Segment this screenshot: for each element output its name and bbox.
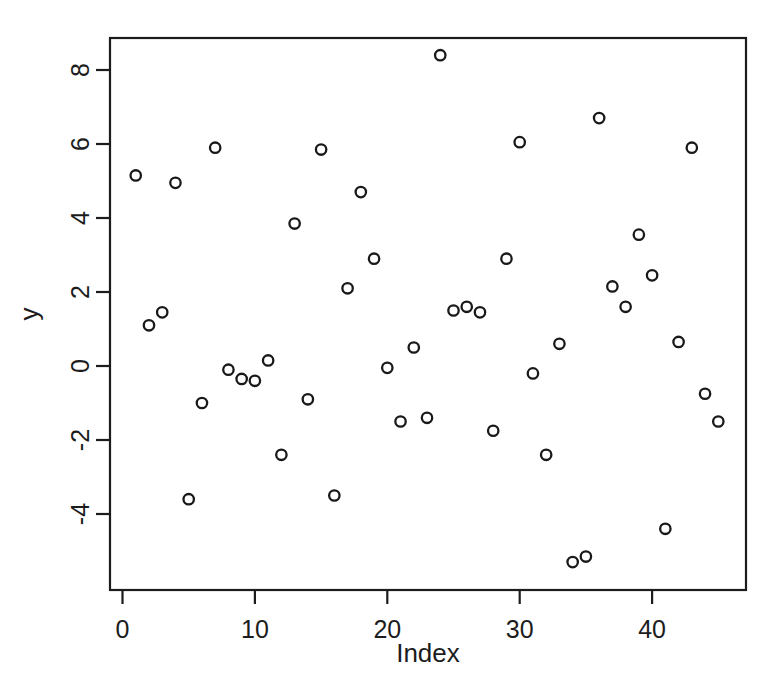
plot-panel <box>110 38 746 590</box>
y-tick-label-8: 8 <box>66 63 94 77</box>
x-axis-ticks <box>123 590 653 604</box>
x-tick-label-30: 30 <box>506 615 534 643</box>
data-point <box>422 413 432 423</box>
y-tick-label--2: -2 <box>66 429 94 451</box>
plot-canvas: 010203040 86420-2-4 Index y <box>0 0 780 686</box>
data-point <box>395 416 405 426</box>
x-axis-title: Index <box>396 638 460 668</box>
data-point <box>673 337 683 347</box>
data-point <box>647 270 657 280</box>
data-point <box>607 281 617 291</box>
data-point <box>448 305 458 315</box>
data-point <box>342 283 352 293</box>
data-point <box>700 389 710 399</box>
y-tick-label-0: 0 <box>66 359 94 373</box>
data-point <box>250 376 260 386</box>
data-point <box>501 254 511 264</box>
data-points-layer <box>131 50 724 567</box>
data-point <box>634 229 644 239</box>
y-tick-label-2: 2 <box>66 285 94 299</box>
data-point <box>515 137 525 147</box>
y-axis-title: y <box>14 308 44 321</box>
data-point <box>435 50 445 60</box>
data-point <box>581 551 591 561</box>
data-point <box>713 416 723 426</box>
data-point <box>369 254 379 264</box>
data-point <box>316 144 326 154</box>
data-point <box>594 113 604 123</box>
data-point <box>289 218 299 228</box>
x-tick-label-10: 10 <box>241 615 269 643</box>
data-point <box>382 363 392 373</box>
data-point <box>567 557 577 567</box>
scatter-plot-figure: 010203040 86420-2-4 Index y <box>0 0 780 686</box>
data-point <box>184 494 194 504</box>
x-axis-tick-labels: 010203040 <box>116 615 666 643</box>
x-tick-label-0: 0 <box>116 615 130 643</box>
y-axis-ticks <box>96 70 110 514</box>
y-tick-label-6: 6 <box>66 137 94 151</box>
data-point <box>660 524 670 534</box>
data-point <box>409 342 419 352</box>
data-point <box>329 490 339 500</box>
data-point <box>131 170 141 180</box>
data-point <box>210 143 220 153</box>
data-point <box>197 398 207 408</box>
data-point <box>554 339 564 349</box>
data-point <box>620 302 630 312</box>
panel-border <box>110 38 746 590</box>
y-tick-label--4: -4 <box>66 503 94 525</box>
data-point <box>223 365 233 375</box>
data-point <box>475 307 485 317</box>
data-point <box>303 394 313 404</box>
data-point <box>263 355 273 365</box>
data-point <box>144 320 154 330</box>
x-tick-label-40: 40 <box>638 615 666 643</box>
data-point <box>528 368 538 378</box>
y-tick-label-4: 4 <box>66 211 94 225</box>
data-point <box>236 374 246 384</box>
data-point <box>541 450 551 460</box>
y-axis-tick-labels: 86420-2-4 <box>66 63 94 525</box>
data-point <box>687 143 697 153</box>
data-point <box>276 450 286 460</box>
data-point <box>462 302 472 312</box>
data-point <box>356 187 366 197</box>
data-point <box>170 178 180 188</box>
data-point <box>157 307 167 317</box>
data-point <box>488 426 498 436</box>
